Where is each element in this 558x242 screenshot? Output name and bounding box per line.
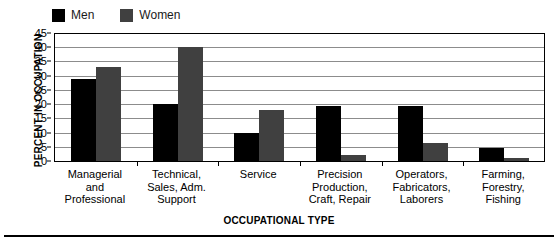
bar-women bbox=[178, 47, 203, 161]
bar-men bbox=[71, 79, 96, 161]
bar-women bbox=[504, 158, 529, 161]
x-axis-tick-labels: ManagerialandProfessionalTechnical,Sales… bbox=[54, 168, 544, 206]
bar-women bbox=[96, 67, 121, 161]
y-tick-mark-25 bbox=[47, 89, 51, 90]
legend-swatch-men-icon bbox=[52, 9, 65, 22]
bar-group bbox=[463, 33, 545, 161]
legend-swatch-women-icon bbox=[120, 9, 133, 22]
bottom-rule-divider bbox=[4, 235, 554, 237]
category-separator-tick bbox=[382, 161, 383, 166]
x-tick-label-line: Support bbox=[138, 193, 216, 206]
x-tick-label-line: Laborers bbox=[383, 193, 461, 206]
bar-group bbox=[382, 33, 464, 161]
y-tick-label-30: 30 bbox=[35, 70, 47, 81]
bar-men bbox=[316, 106, 341, 161]
bar-women bbox=[341, 155, 366, 161]
y-tick-mark-5 bbox=[47, 146, 51, 147]
bar-chart-figure: Men Women PERCENT IN OCCUPATION 45403530… bbox=[0, 0, 558, 242]
bar-women bbox=[259, 110, 284, 161]
x-tick-label-line: Professional bbox=[56, 193, 134, 206]
x-tick-label-line: Technical, bbox=[138, 168, 216, 181]
category-separator-tick bbox=[463, 161, 464, 166]
bar-group bbox=[300, 33, 382, 161]
plot-wrapper: 454035302520151050 bbox=[28, 30, 544, 164]
legend-label-men: Men bbox=[71, 9, 94, 22]
x-tick-label: ManagerialandProfessional bbox=[54, 168, 136, 206]
x-tick-label: PrecisionProduction,Craft, Repair bbox=[299, 168, 381, 206]
y-tick-mark-0 bbox=[47, 161, 51, 162]
category-separator-tick bbox=[218, 161, 219, 166]
x-tick-label-line: Sales, Adm. bbox=[138, 181, 216, 194]
x-tick-label: Farming,Forestry,Fishing bbox=[462, 168, 544, 206]
x-tick-label: Technical,Sales, Adm.Support bbox=[136, 168, 218, 206]
x-tick-label-line: and bbox=[56, 181, 134, 194]
y-tick-label-35: 35 bbox=[35, 56, 47, 67]
y-tick-label-45: 45 bbox=[35, 28, 47, 39]
x-tick-label-line: Managerial bbox=[56, 168, 134, 181]
bar-men bbox=[234, 133, 259, 161]
y-tick-mark-45 bbox=[47, 33, 51, 34]
y-tick-label-20: 20 bbox=[35, 99, 47, 110]
x-tick-label-line: Forestry, bbox=[464, 181, 542, 194]
y-tick-mark-10 bbox=[47, 132, 51, 133]
y-tick-mark-30 bbox=[47, 75, 51, 76]
x-tick-label-line: Precision bbox=[301, 168, 379, 181]
x-tick-label-line: Fabricators, bbox=[383, 181, 461, 194]
bar-series-container bbox=[55, 33, 545, 161]
legend-entry-women: Women bbox=[120, 9, 180, 22]
bar-men bbox=[153, 104, 178, 161]
x-tick-label-line: Craft, Repair bbox=[301, 193, 379, 206]
y-tick-mark-40 bbox=[47, 47, 51, 48]
bar-group bbox=[55, 33, 137, 161]
legend-entry-men: Men bbox=[52, 9, 94, 22]
x-tick-label-line: Farming, bbox=[464, 168, 542, 181]
y-tick-label-25: 25 bbox=[35, 84, 47, 95]
bar-women bbox=[423, 143, 448, 161]
category-separator-tick bbox=[300, 161, 301, 166]
bar-men bbox=[479, 148, 504, 161]
y-tick-mark-15 bbox=[47, 118, 51, 119]
y-axis-tick-labels: 454035302520151050 bbox=[28, 30, 50, 164]
category-separator-tick bbox=[137, 161, 138, 166]
x-tick-label: Operators,Fabricators,Laborers bbox=[381, 168, 463, 206]
bar-group bbox=[137, 33, 219, 161]
y-tick-label-15: 15 bbox=[35, 113, 47, 124]
x-tick-label-line: Service bbox=[219, 168, 297, 181]
chart-legend: Men Women bbox=[52, 6, 180, 24]
x-tick-label-line: Production, bbox=[301, 181, 379, 194]
x-tick-label: Service bbox=[217, 168, 299, 206]
y-tick-label-10: 10 bbox=[35, 127, 47, 138]
plot-area bbox=[54, 33, 545, 162]
y-tick-label-40: 40 bbox=[35, 42, 47, 53]
bar-group bbox=[218, 33, 300, 161]
x-tick-label-line: Operators, bbox=[383, 168, 461, 181]
y-tick-mark-35 bbox=[47, 61, 51, 62]
legend-label-women: Women bbox=[139, 9, 180, 22]
x-tick-label-line: Fishing bbox=[464, 193, 542, 206]
y-tick-mark-20 bbox=[47, 104, 51, 105]
x-axis-title: OCCUPATIONAL TYPE bbox=[0, 215, 558, 226]
bar-men bbox=[398, 106, 423, 161]
